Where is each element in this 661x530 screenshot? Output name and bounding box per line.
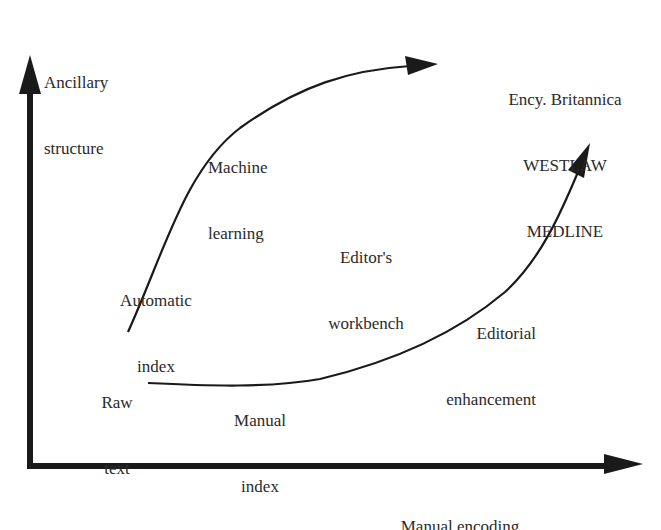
editors-workbench-line2: workbench <box>316 313 416 335</box>
machine-learning-line2: learning <box>208 223 267 245</box>
y-axis-label: Ancillary structure <box>44 28 108 182</box>
endpoint-medline: MEDLINE <box>490 221 640 243</box>
x-axis-label-line1: Manual encoding <box>380 516 540 530</box>
x-axis-label: Manual encoding effort <box>380 472 540 530</box>
editorial-enhancement-label: Editorial enhancement <box>420 279 536 433</box>
machine-learning-line1: Machine <box>208 157 267 179</box>
editorial-enhancement-line2: enhancement <box>420 389 536 411</box>
editorial-enhancement-line1: Editorial <box>420 323 536 345</box>
endpoint-ency-britannica: Ency. Britannica <box>490 89 640 111</box>
raw-text-line2: text <box>93 458 141 480</box>
automatic-curve-arrowhead-icon <box>405 56 438 75</box>
manual-index-line2: index <box>222 476 298 498</box>
manual-index-line1: Manual <box>222 410 298 432</box>
y-axis-label-line2: structure <box>44 138 108 160</box>
raw-text-line1: Raw <box>93 392 141 414</box>
endpoint-westlaw: WESTLAW <box>490 155 640 177</box>
machine-learning-label: Machine learning <box>208 113 267 267</box>
editors-workbench-line1: Editor's <box>316 247 416 269</box>
manual-index-label: Manual index <box>222 366 298 520</box>
automatic-index-line1: Automatic <box>108 290 204 312</box>
editors-workbench-label: Editor's workbench <box>316 203 416 357</box>
endpoint-label: Ency. Britannica WESTLAW MEDLINE <box>490 45 640 265</box>
y-axis-arrowhead-icon <box>19 55 41 94</box>
raw-text-label: Raw text <box>93 348 141 502</box>
y-axis-label-line1: Ancillary <box>44 72 108 94</box>
x-axis-arrowhead-icon <box>604 454 643 474</box>
